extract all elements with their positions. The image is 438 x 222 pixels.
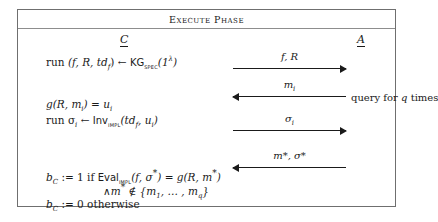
arrowhead-right-signature: [340, 127, 347, 135]
challenger-step-invert: run σi ← Invimpl(tdf, ui): [46, 114, 158, 130]
hash-output-index: i: [110, 105, 112, 113]
invert-algorithm-name: Inv: [93, 115, 108, 126]
reject-bit-symbol: b: [46, 198, 53, 210]
challenger-step-hash: g(R, mi) = ui: [46, 98, 112, 113]
message-label-signature: σi: [233, 113, 346, 127]
title-divider: [18, 28, 395, 29]
signature-symbol: σ: [285, 113, 292, 124]
query-message-symbol: m: [284, 79, 293, 90]
freshness-ellipsis: , … , m: [161, 185, 198, 197]
party-label-adversary: A: [357, 34, 365, 47]
party-label-challenger: C: [120, 34, 128, 47]
keygen-run-keyword: run: [46, 56, 65, 68]
keygen-tuple-close: ) ←: [110, 56, 130, 68]
message-label-query: mi: [233, 79, 346, 93]
query-repetition-note: query for q times: [351, 92, 438, 103]
query-note-prefix: query for: [351, 92, 401, 103]
query-note-suffix: times: [407, 92, 438, 103]
party-adversary-symbol: A: [357, 33, 365, 46]
invert-args-close: ): [154, 114, 158, 126]
invert-args-mid: , u: [138, 114, 151, 126]
arrow-line-public-key: [233, 68, 346, 69]
invert-run-keyword: run σ: [46, 114, 75, 126]
execute-phase-figure: Execute Phase C A run (f, R, tdf) ← KGsp…: [17, 9, 396, 207]
invert-algorithm-subscript: impl: [108, 121, 120, 129]
freshness-set-close: }: [202, 185, 209, 197]
eval-args-close: ): [217, 171, 221, 183]
keygen-algorithm-subscript: spec: [144, 63, 158, 71]
message-arrow-public-key: f, R: [233, 51, 346, 73]
arrowhead-right-public-key: [340, 65, 347, 73]
keygen-arg-open: (1: [158, 56, 169, 68]
arrow-line-query: [233, 96, 346, 97]
freshness-notin-open: ∉ {m: [125, 185, 156, 197]
eval-algorithm-name: Eval: [98, 172, 119, 183]
message-label-public-key: f, R: [233, 51, 346, 62]
arrowhead-left-forgery: [232, 164, 239, 172]
arrow-line-signature: [233, 130, 346, 131]
keygen-algorithm-name: KG: [130, 57, 144, 68]
party-challenger-symbol: C: [120, 33, 128, 46]
freshness-and-symbol: ∧m: [103, 185, 121, 197]
invert-assign-arrow: ←: [77, 114, 92, 126]
message-label-forgery: m*, σ*: [233, 150, 346, 161]
query-message-index: i: [293, 85, 295, 93]
reject-assign-text: := 0 otherwise: [58, 198, 140, 210]
challenger-output-reject: bC := 0 otherwise: [46, 198, 140, 213]
challenger-step-keygen: run (f, R, tdf) ← KGspec(1λ): [46, 55, 177, 71]
keygen-tuple-open: (f, R, td: [68, 56, 108, 68]
keygen-arg-close: ): [173, 56, 177, 68]
arrowhead-left-query: [232, 93, 239, 101]
signature-index: i: [292, 119, 294, 127]
message-arrow-forgery: m*, σ*: [233, 150, 346, 172]
invert-args-open: (td: [120, 114, 135, 126]
eval-equals-hash: ) = g(R, m: [157, 171, 212, 183]
figure-title: Execute Phase: [18, 14, 395, 25]
message-arrow-query: mi: [233, 79, 346, 101]
eval-args-open: (f, σ: [131, 171, 152, 183]
hash-expression-equals: ) = u: [84, 98, 110, 110]
accept-assign-text: := 1 if: [58, 171, 98, 183]
arrow-line-forgery: [233, 167, 346, 168]
hash-expression-open: g(R, m: [46, 98, 81, 110]
message-arrow-signature: σi: [233, 113, 346, 135]
accept-bit-symbol: b: [46, 171, 53, 183]
